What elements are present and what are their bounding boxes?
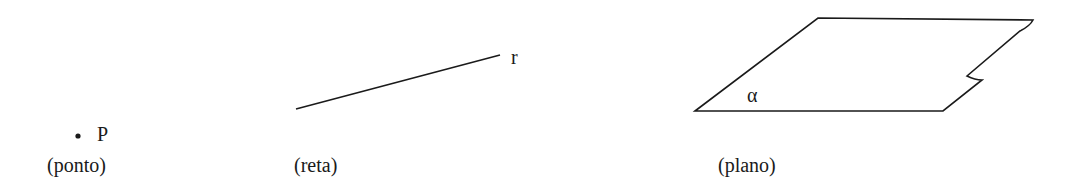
plane-label: α — [747, 84, 758, 106]
line-figure: r (reta) — [294, 46, 518, 177]
plane-figure: α (plano) — [695, 18, 1033, 177]
line-label: r — [511, 46, 518, 68]
geometry-primitives-diagram: P (ponto) r (reta) α (plano) — [0, 0, 1078, 185]
point-figure: P (ponto) — [47, 123, 108, 177]
line-caption: (reta) — [294, 154, 337, 177]
point-dot — [75, 133, 80, 138]
point-caption: (ponto) — [47, 154, 106, 177]
point-label: P — [97, 123, 108, 145]
line-segment — [296, 55, 500, 109]
plane-caption: (plano) — [718, 154, 776, 177]
plane-parallelogram — [695, 18, 1033, 111]
